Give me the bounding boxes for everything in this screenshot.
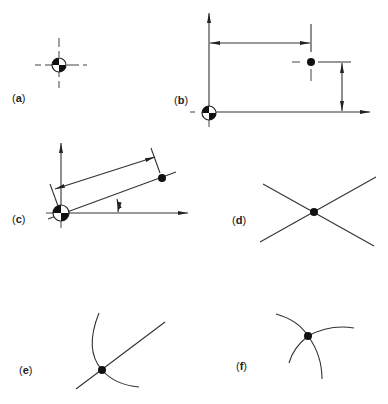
line-e — [76, 322, 165, 389]
panel-label-a: (a) — [12, 92, 25, 104]
intersection-point-f — [304, 332, 312, 340]
panel-label-b: (b) — [174, 94, 188, 106]
arc-e — [92, 313, 139, 387]
datum-symbol-a — [35, 38, 87, 88]
arc-f-3 — [289, 336, 308, 363]
panel-d: (d) — [232, 177, 376, 246]
panel-label-f: (f) — [236, 360, 247, 372]
intersection-point-e — [98, 366, 106, 374]
panel-e: (e) — [19, 313, 165, 389]
panel-label-c: (c) — [12, 213, 25, 225]
arc-f-1 — [276, 314, 308, 336]
arc-f-4 — [308, 336, 322, 379]
panel-c: (c) — [12, 143, 188, 228]
dimension-radius-c — [55, 157, 155, 189]
line-d-1 — [263, 184, 374, 246]
feature-point-c — [158, 174, 166, 182]
feature-point-b — [307, 58, 315, 66]
panel-a: (a) — [12, 38, 87, 104]
datum-symbol-b — [202, 106, 216, 120]
intersection-point-d — [310, 208, 318, 216]
extension-line-c-2 — [151, 148, 160, 173]
datum-symbol-c — [53, 205, 69, 221]
panel-f: (f) — [236, 314, 354, 379]
figure-canvas: (a) (b) — [0, 0, 388, 404]
panel-label-e: (e) — [19, 364, 32, 376]
extension-line-c-1 — [50, 184, 58, 206]
arc-f-2 — [308, 327, 354, 336]
panel-label-d: (d) — [232, 214, 246, 226]
panel-b: (b) — [174, 13, 370, 127]
dimension-angle-c — [117, 199, 118, 212]
line-d-2 — [260, 177, 376, 242]
